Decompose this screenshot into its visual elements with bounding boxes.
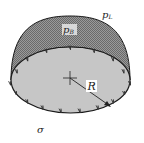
surface-tension-label: σ (37, 124, 45, 135)
base-disk (11, 47, 130, 113)
radius-label: R (87, 80, 96, 93)
bubble-diagram: R pB pL σ (0, 0, 144, 143)
outer-arrow-head (9, 81, 11, 85)
outer-pressure-label: pL (102, 9, 112, 20)
